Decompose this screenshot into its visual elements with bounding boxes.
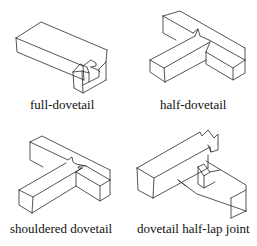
shouldered-dovetail-drawing <box>19 136 110 213</box>
half-dovetail-drawing <box>150 11 245 82</box>
caption-dovetail-half-lap-joint: dovetail half-lap joint <box>137 222 250 235</box>
dovetail-half-lap-joint-drawing <box>137 130 246 218</box>
joint-diagram-figure <box>0 0 257 246</box>
full-dovetail-drawing <box>16 22 107 93</box>
caption-half-dovetail: half-dovetail <box>160 98 226 111</box>
caption-shouldered-dovetail: shouldered dovetail <box>10 222 112 235</box>
caption-full-dovetail: full-dovetail <box>30 98 94 111</box>
